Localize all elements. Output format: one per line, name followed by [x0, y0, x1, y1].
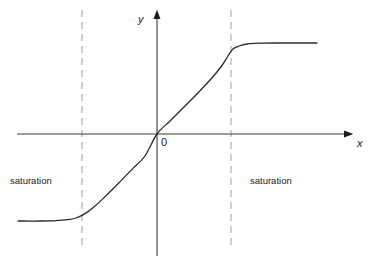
transfer-curve: [18, 43, 317, 221]
x-axis-label: x: [357, 138, 363, 149]
plot-canvas: [0, 0, 370, 269]
origin-label: 0: [161, 137, 167, 148]
saturation-label-right: saturation: [250, 176, 292, 186]
saturation-transfer-characteristic-figure: y x 0 saturation saturation: [0, 0, 370, 269]
saturation-label-left: saturation: [10, 176, 52, 186]
y-axis-label: y: [138, 14, 144, 25]
